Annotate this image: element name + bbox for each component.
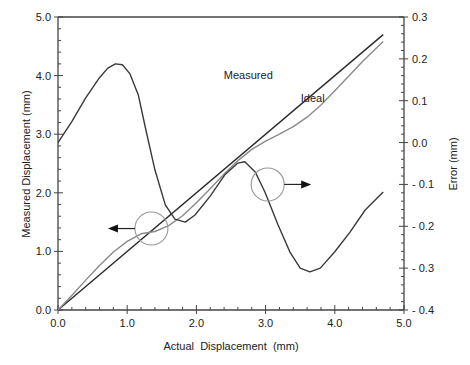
series-line-measured <box>58 42 383 310</box>
y2-tick-label: - 0.3 <box>412 262 434 274</box>
y2-tick-label: 0.1 <box>412 95 427 107</box>
chart: 0.01.02.03.04.05.00.01.02.03.04.05.00.30… <box>0 0 470 365</box>
y2-tick-label: 0.3 <box>412 11 427 23</box>
x-tick-label: 2.0 <box>189 317 204 329</box>
x-axis-title: Actual Displacement (mm) <box>163 340 298 352</box>
y2-tick-label: 0.2 <box>412 53 427 65</box>
x-tick-label: 5.0 <box>396 317 411 329</box>
x-tick-label: 4.0 <box>327 317 342 329</box>
y-tick-label: 1.0 <box>36 245 51 257</box>
arrow-left-icon <box>108 225 118 233</box>
y2-tick-label: - 0.1 <box>412 178 434 190</box>
y-tick-label: 0.0 <box>36 304 51 316</box>
y-tick-label: 2.0 <box>36 187 51 199</box>
y2-tick-label: - 0.2 <box>412 220 434 232</box>
annotations: MeasuredIdeal <box>108 69 325 246</box>
y2-tick-label: - 0.4 <box>412 304 434 316</box>
y-tick-label: 3.0 <box>36 128 51 140</box>
x-tick-label: 3.0 <box>258 317 273 329</box>
series-line-error <box>58 64 383 272</box>
x-tick-label: 0.0 <box>50 317 65 329</box>
indicator-circle <box>251 168 284 201</box>
data-series <box>58 35 383 310</box>
y2-axis-title: Error (mm) <box>447 137 459 190</box>
arrow-right-icon <box>301 180 311 188</box>
y-tick-label: 5.0 <box>36 11 51 23</box>
y-axis-title: Measured Displacement (mm) <box>20 90 32 237</box>
y-tick-label: 4.0 <box>36 70 51 82</box>
series-line-ideal <box>58 35 383 310</box>
axis-ticks: 0.01.02.03.04.05.00.01.02.03.04.05.00.30… <box>36 11 434 329</box>
label-ideal: Ideal <box>301 92 325 104</box>
x-tick-label: 1.0 <box>120 317 135 329</box>
y2-tick-label: 0.0 <box>412 137 427 149</box>
label-measured: Measured <box>224 69 273 81</box>
